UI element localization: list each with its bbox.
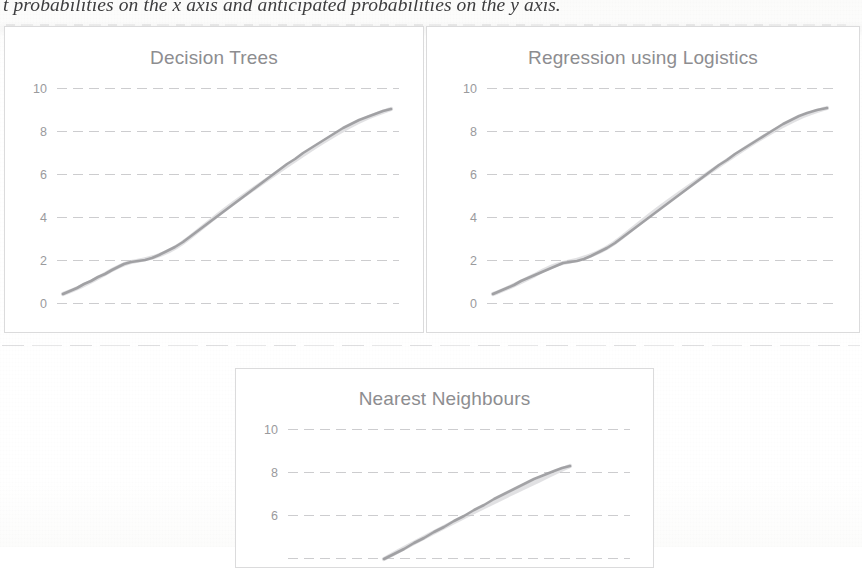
gridline-0: [487, 303, 835, 304]
caption-text: t probabilities on the x axis and antici…: [0, 0, 862, 17]
chart-title-decision-trees: Decision Trees: [5, 47, 423, 69]
gridline-4: [487, 217, 835, 218]
chart-title-nearest-neighbours: Nearest Neighbours: [236, 388, 653, 410]
series-line-decision-trees: [57, 88, 399, 320]
ytick-label-6: 6: [242, 510, 278, 523]
gridline-8: [487, 131, 835, 132]
gridline-6: [57, 174, 399, 175]
ytick-label-0: 0: [441, 298, 477, 311]
ytick-label-6: 6: [11, 169, 47, 182]
chart-panel-nearest-neighbours: Nearest Neighbours 10 8 6: [235, 368, 654, 568]
plot-area-nearest-neighbours: [288, 429, 630, 572]
gridline-10: [57, 88, 399, 89]
gridline-2: [487, 260, 835, 261]
ytick-label-8: 8: [441, 126, 477, 139]
gridline-4: [57, 217, 399, 218]
caption-line: t probabilities on the x axis and antici…: [0, 0, 862, 19]
page-scan-rule: [2, 345, 860, 346]
ytick-label-8: 8: [11, 126, 47, 139]
gridline-10: [487, 88, 835, 89]
ytick-label-2: 2: [441, 255, 477, 268]
ytick-label-6: 6: [441, 169, 477, 182]
gridline-4: [288, 558, 630, 559]
chart-panel-regression-using-logistics: Regression using Logistics 10 8 6 4 2 0: [426, 26, 860, 333]
series-line-regression-using-logistics: [487, 88, 835, 320]
gridline-0: [57, 303, 399, 304]
gridline-8: [57, 131, 399, 132]
ytick-label-0: 0: [11, 298, 47, 311]
ytick-label-10: 10: [11, 83, 47, 96]
gridline-10: [288, 429, 630, 430]
chart-panel-decision-trees: Decision Trees 10 8 6 4 2 0: [4, 26, 424, 333]
ytick-label-10: 10: [242, 424, 278, 437]
ytick-label-4: 4: [11, 212, 47, 225]
gridline-2: [57, 260, 399, 261]
chart-title-regression-using-logistics: Regression using Logistics: [427, 47, 859, 69]
ytick-label-10: 10: [441, 83, 477, 96]
ytick-label-4: 4: [441, 212, 477, 225]
gridline-8: [288, 472, 630, 473]
series-line-nearest-neighbours: [288, 429, 630, 572]
ytick-label-8: 8: [242, 467, 278, 480]
gridline-6: [487, 174, 835, 175]
ytick-label-2: 2: [11, 255, 47, 268]
gridline-6: [288, 515, 630, 516]
plot-area-regression-using-logistics: [487, 88, 835, 320]
plot-area-decision-trees: [57, 88, 399, 320]
